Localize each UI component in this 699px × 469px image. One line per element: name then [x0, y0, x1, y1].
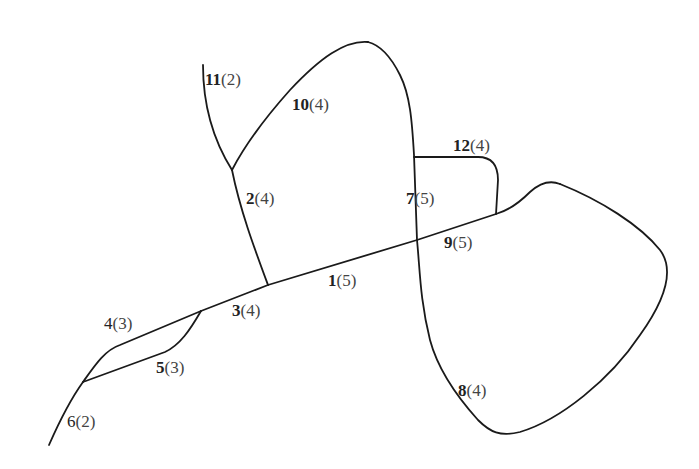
edge-label-2: 2(4) [246, 190, 274, 207]
edge-2 [232, 170, 268, 285]
edge-label-5: 5(3) [156, 359, 184, 376]
edge-label-8: 8(4) [458, 382, 486, 399]
edge-9 [417, 182, 560, 240]
edge-label-9: 9(5) [444, 234, 472, 251]
edge-label-4: 4(3) [104, 315, 132, 332]
edge-8 [417, 184, 667, 434]
network-diagram [0, 0, 699, 469]
edge-label-10: 10(4) [292, 96, 329, 113]
edge-label-1: 1(5) [328, 272, 356, 289]
edge-label-12: 12(4) [453, 137, 490, 154]
edge-label-6: 6(2) [67, 413, 95, 430]
edge-label-3: 3(4) [232, 302, 260, 319]
edge-label-11: 11(2) [205, 71, 241, 88]
edge-7 [368, 42, 417, 240]
edge-label-7: 7(5) [406, 190, 434, 207]
